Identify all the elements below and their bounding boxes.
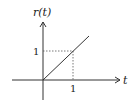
x-tick-label: 1 xyxy=(70,83,76,94)
x-axis-label: t xyxy=(123,74,128,87)
ramp-function-diagram: r(t) t 1 1 xyxy=(0,0,134,103)
y-tick-label: 1 xyxy=(33,46,39,57)
ramp-line xyxy=(43,36,89,80)
y-axis-label: r(t) xyxy=(33,6,51,19)
